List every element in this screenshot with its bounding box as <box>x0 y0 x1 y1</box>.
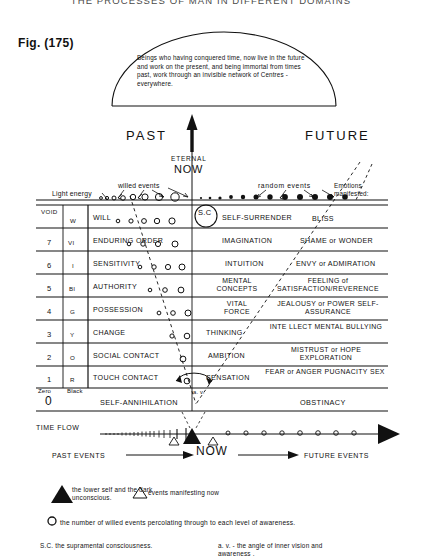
page-title: THE PROCESSES OF MAN IN DIFFERENT DOMAIN… <box>71 0 351 6</box>
row-3-left: AUTHORITY <box>93 283 137 291</box>
row-6-left: SOCIAL CONTACT <box>93 352 159 360</box>
row-6-right: MISTRUST or HOPE EXPLORATION <box>264 346 388 362</box>
row-3-num: 5 <box>47 284 52 293</box>
row-2-color: I <box>72 262 74 269</box>
row-0-left: WILL <box>93 214 111 222</box>
row-7-color: R <box>70 376 75 383</box>
future-label: FUTURE <box>305 128 370 143</box>
self-annihilation-label: SELF-ANNIHILATION <box>100 398 178 407</box>
row-4-mid: VITAL FORCE <box>217 300 257 316</box>
row-5-mid: THINKING <box>206 329 243 337</box>
row-0-void: VOID <box>41 208 58 215</box>
sc-label: S.C <box>198 208 211 217</box>
row-2-right: ENVY or ADMIRATION <box>296 260 375 268</box>
row-5-num: 3 <box>47 330 52 339</box>
row-7-mid: SENSATION <box>206 374 250 382</box>
row-5-right: INTE LLECT MENTAL BULLYING <box>265 323 387 331</box>
legend-circle-icon <box>48 517 56 525</box>
now-ray-right <box>196 412 205 428</box>
row-5-color: Y <box>70 331 74 338</box>
row-0-color: W <box>70 217 76 224</box>
time-flow-arrowhead <box>378 424 400 444</box>
row-6-num: 2 <box>47 353 52 362</box>
past-label: PAST <box>126 128 167 143</box>
now-bottom-label: NOW <box>196 444 228 458</box>
row-1-mid: IMAGINATION <box>222 237 272 245</box>
row-1-left: ENDURING ORDER <box>93 237 163 245</box>
future-events-arrowhead <box>288 451 299 459</box>
row-7-num: 1 <box>47 375 52 384</box>
emotions-manifested-label-line2: manifested: <box>334 190 369 197</box>
eternal-now-arrowhead <box>187 114 198 130</box>
future-events-label: FUTURE EVENTS <box>304 452 369 459</box>
legend-sc-text: S.C. the supramental consciousness. <box>40 542 153 549</box>
row-4-right: JEALOUSY or POWER SELF-ASSURANCE <box>268 300 388 316</box>
row-6-color: O <box>70 354 75 361</box>
black-word-label: Black <box>67 388 83 394</box>
figure-page: THE PROCESSES OF MAN IN DIFFERENT DOMAIN… <box>0 0 422 558</box>
row-5-left: CHANGE <box>93 329 125 337</box>
row-4-left: POSSESSION <box>93 306 143 314</box>
zero-number: 0 <box>45 394 52 408</box>
random-events-label: random events <box>258 182 311 189</box>
dome-caption: Beings who having conquered time, now li… <box>137 54 312 88</box>
row-6-mid: AMBITION <box>208 352 245 360</box>
legend-av-text: a. v. - the angle of inner vision and aw… <box>218 542 348 558</box>
top-band-filled-dots <box>200 194 348 200</box>
light-energy-label: Light energy <box>52 190 92 197</box>
past-events-arrowhead <box>183 451 194 459</box>
time-flow-label: TIME FLOW <box>36 424 79 431</box>
row-1-color: VI <box>68 239 75 246</box>
obstinacy-label: OBSTINACY <box>300 398 346 407</box>
legend-circle-text: the number of willed events percolating … <box>60 519 295 526</box>
row-3-right: FEELING of SATISFACTION/REVERENCE <box>265 277 391 293</box>
row-1-right: SHAME or WONDER <box>300 237 373 245</box>
row-7-right: FEAR or ANGER PUGNACITY SEX <box>262 368 388 376</box>
time-flow-future-circles <box>226 431 356 436</box>
row-4-color: G <box>70 308 75 315</box>
eternal-label: ETERNAL <box>171 155 207 162</box>
row-3-mid: MENTAL CONCEPTS <box>215 277 259 293</box>
row-2-mid: INTUITION <box>225 260 264 268</box>
row-0-right: BLISS <box>312 215 334 223</box>
row-3-color: Bl <box>69 285 75 292</box>
row-4-num: 4 <box>47 307 52 316</box>
figure-label: Fig. (175) <box>18 36 74 50</box>
emotions-manifested-label-line1: Emotions <box>334 182 362 189</box>
row-7-left: TOUCH CONTACT <box>93 374 158 382</box>
row-2-left: SENSITIVITY <box>93 260 140 268</box>
now-ray-left <box>182 412 190 428</box>
past-events-label: PAST EVENTS <box>52 452 105 459</box>
row-2-num: 6 <box>47 261 52 270</box>
legend-filled-triangle-icon <box>51 485 73 503</box>
funnel-left-dashed <box>130 196 196 404</box>
willed-events-label: willed events <box>118 182 160 189</box>
eternal-now-label: NOW <box>174 163 203 175</box>
row-0-mid: SELF-SURRENDER <box>222 214 292 222</box>
legend-open-triangle-text: events manifesting now <box>148 489 219 496</box>
row-1-num: 7 <box>47 238 52 247</box>
angle-of-vision-label: a. v. <box>193 389 205 395</box>
